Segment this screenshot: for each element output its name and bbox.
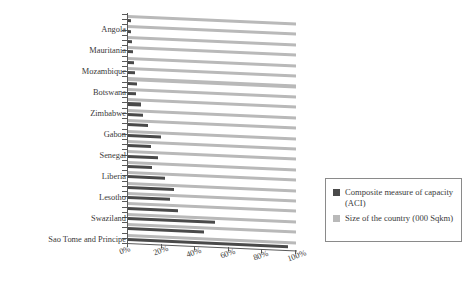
y-axis-label: Sao Tome and Principe (48, 235, 126, 244)
bar-size (128, 161, 296, 172)
bar-aci (128, 123, 148, 127)
legend-label-size: Size of the country (000 Sqkm) (345, 213, 461, 224)
y-axis-labels: AngolaMauritaniaMozambiqueBotswanaZimbab… (0, 0, 126, 292)
bar-aci (128, 102, 141, 106)
bar-aci (128, 196, 170, 201)
y-axis-label: Mozambique (82, 67, 126, 76)
bar-size (128, 88, 296, 99)
y-axis-label: Senegal (99, 151, 126, 160)
x-axis-label: 0% (118, 244, 132, 256)
bar-aci (128, 155, 158, 159)
y-axis-label: Lesotho (99, 193, 126, 202)
y-axis-label: Liberia (102, 172, 126, 181)
bar-size (128, 140, 296, 151)
y-axis-label: Gabon (104, 130, 126, 139)
x-axis-label: 80% (252, 249, 270, 263)
y-axis-label: Swaziland (91, 214, 126, 223)
bar-size (128, 98, 296, 109)
bar-aci (128, 19, 131, 22)
bar-chart: AngolaMauritaniaMozambiqueBotswanaZimbab… (0, 0, 471, 292)
bar-aci (128, 144, 151, 148)
plot-area (128, 14, 296, 243)
legend-label-aci: Composite measure of capacity (ACI) (345, 187, 461, 208)
y-axis-label: Mauritania (89, 46, 126, 55)
legend-item-aci: Composite measure of capacity (ACI) (333, 187, 461, 208)
bar-aci (128, 165, 152, 169)
bar-size (128, 25, 296, 36)
x-axis-label: 40% (185, 246, 203, 260)
x-axis-label: 60% (219, 247, 237, 261)
bar-aci (128, 30, 131, 33)
bar-size (128, 46, 296, 57)
chart-legend: Composite measure of capacity (ACI) Size… (325, 178, 462, 242)
bar-size (128, 109, 296, 120)
bar-size (128, 36, 296, 47)
y-axis-label: Botswana (93, 88, 126, 97)
bar-size (128, 57, 296, 68)
y-axis-label: Zimbabwe (90, 109, 126, 118)
legend-swatch-aci (333, 189, 340, 196)
bars-layer (128, 14, 296, 250)
bar-aci (128, 113, 143, 117)
x-axis-label: 20% (152, 244, 170, 258)
legend-swatch-size (333, 215, 340, 222)
bar-aci (128, 71, 135, 74)
bar-aci (128, 186, 174, 191)
bar-aci (128, 175, 165, 180)
bar-aci (128, 40, 132, 43)
bar-size (128, 77, 296, 88)
bar-size (128, 67, 296, 78)
legend-item-size: Size of the country (000 Sqkm) (333, 213, 461, 224)
bar-aci (128, 134, 161, 139)
bar-size (128, 119, 296, 130)
bar-aci (128, 82, 137, 85)
bar-aci (128, 92, 136, 95)
bar-size (128, 15, 296, 26)
bar-aci (128, 207, 178, 212)
bar-aci (128, 50, 133, 53)
bar-aci (128, 61, 134, 64)
y-axis-label: Angola (101, 25, 126, 34)
